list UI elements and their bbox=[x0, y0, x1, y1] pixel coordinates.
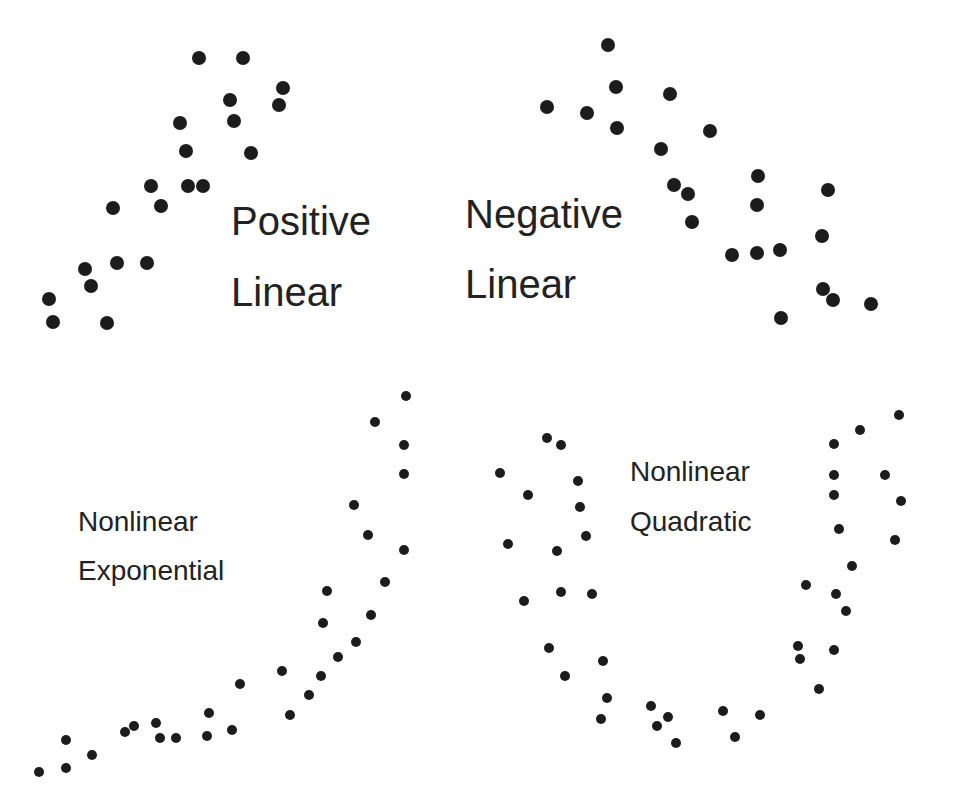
data-point bbox=[829, 439, 839, 449]
data-point bbox=[202, 731, 212, 741]
data-point bbox=[667, 178, 681, 192]
label-line-1: Nonlinear bbox=[630, 458, 750, 486]
data-point bbox=[349, 500, 359, 510]
data-point bbox=[573, 476, 583, 486]
data-point bbox=[580, 106, 594, 120]
data-point bbox=[503, 539, 513, 549]
data-point bbox=[793, 641, 803, 651]
data-point bbox=[179, 144, 193, 158]
data-point bbox=[556, 440, 566, 450]
data-point bbox=[129, 721, 139, 731]
data-point bbox=[366, 610, 376, 620]
label-line-2: Exponential bbox=[78, 557, 224, 585]
data-point bbox=[519, 596, 529, 606]
data-point bbox=[399, 440, 409, 450]
data-point bbox=[34, 767, 44, 777]
label-line-1: Nonlinear bbox=[78, 508, 198, 536]
data-point bbox=[795, 654, 805, 664]
data-point bbox=[730, 732, 740, 742]
data-point bbox=[663, 87, 677, 101]
label-line-2: Linear bbox=[231, 272, 342, 312]
data-point bbox=[814, 684, 824, 694]
data-point bbox=[841, 606, 851, 616]
data-point bbox=[322, 586, 332, 596]
data-point bbox=[896, 496, 906, 506]
data-point bbox=[703, 124, 717, 138]
data-point bbox=[718, 706, 728, 716]
data-point bbox=[646, 701, 656, 711]
data-point bbox=[87, 750, 97, 760]
data-point bbox=[826, 293, 840, 307]
data-point bbox=[84, 279, 98, 293]
data-point bbox=[192, 51, 206, 65]
data-point bbox=[610, 121, 624, 135]
data-point bbox=[318, 618, 328, 628]
data-point bbox=[880, 470, 890, 480]
data-point bbox=[227, 725, 237, 735]
data-point bbox=[542, 433, 552, 443]
data-point bbox=[244, 146, 258, 160]
data-point bbox=[333, 652, 343, 662]
data-point bbox=[236, 51, 250, 65]
data-point bbox=[575, 502, 585, 512]
data-point bbox=[173, 116, 187, 130]
data-point bbox=[144, 179, 158, 193]
label-line-2: Linear bbox=[465, 264, 576, 304]
data-point bbox=[78, 262, 92, 276]
data-point bbox=[815, 229, 829, 243]
data-point bbox=[370, 417, 380, 427]
data-point bbox=[495, 468, 505, 478]
data-point bbox=[363, 530, 373, 540]
data-point bbox=[601, 38, 615, 52]
data-point bbox=[671, 738, 681, 748]
data-point bbox=[609, 80, 623, 94]
data-point bbox=[894, 410, 904, 420]
data-point bbox=[380, 577, 390, 587]
data-point bbox=[523, 490, 533, 500]
data-point bbox=[304, 690, 314, 700]
data-point bbox=[401, 391, 411, 401]
data-point bbox=[42, 292, 56, 306]
data-point bbox=[751, 169, 765, 183]
data-point bbox=[151, 718, 161, 728]
label-line-1: Negative bbox=[465, 194, 623, 234]
data-point bbox=[46, 315, 60, 329]
data-point bbox=[663, 712, 673, 722]
data-point bbox=[155, 733, 165, 743]
data-point bbox=[725, 248, 739, 262]
data-point bbox=[816, 282, 830, 296]
data-point bbox=[829, 490, 839, 500]
data-point bbox=[829, 645, 839, 655]
data-point bbox=[773, 243, 787, 257]
data-point bbox=[652, 721, 662, 731]
data-point bbox=[106, 201, 120, 215]
data-point bbox=[831, 589, 841, 599]
data-point bbox=[154, 199, 168, 213]
data-point bbox=[596, 714, 606, 724]
data-point bbox=[774, 311, 788, 325]
data-point bbox=[399, 545, 409, 555]
data-point bbox=[540, 100, 554, 114]
data-point bbox=[196, 179, 210, 193]
data-point bbox=[181, 179, 195, 193]
data-point bbox=[685, 215, 699, 229]
data-point bbox=[801, 580, 811, 590]
data-point bbox=[750, 198, 764, 212]
data-point bbox=[316, 671, 326, 681]
negative-linear-dots bbox=[540, 38, 878, 325]
data-point bbox=[544, 643, 554, 653]
data-point bbox=[750, 246, 764, 260]
data-point bbox=[681, 187, 695, 201]
data-point bbox=[120, 727, 130, 737]
data-point bbox=[598, 656, 608, 666]
data-point bbox=[864, 297, 878, 311]
data-point bbox=[204, 708, 214, 718]
data-point bbox=[285, 710, 295, 720]
data-point bbox=[100, 316, 114, 330]
data-point bbox=[351, 637, 361, 647]
scatter-pattern-canvas bbox=[0, 0, 954, 812]
data-point bbox=[235, 679, 245, 689]
data-point bbox=[855, 425, 865, 435]
data-point bbox=[755, 710, 765, 720]
data-point bbox=[110, 256, 124, 270]
